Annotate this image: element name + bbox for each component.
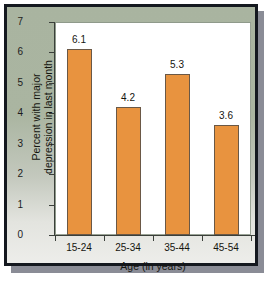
- x-axis-category-label: 15-24: [53, 243, 105, 253]
- y-axis-line: [54, 22, 55, 236]
- bar-25-34: [116, 107, 141, 235]
- y-axis-title: Percent with major depression in last mo…: [30, 17, 54, 217]
- y-axis-tick-label: 1: [1, 200, 23, 210]
- x-axis-tick: [55, 236, 56, 241]
- x-axis-tick: [153, 236, 154, 241]
- y-axis-tick-label: 4: [1, 108, 23, 118]
- bar-value-label: 6.1: [59, 35, 99, 45]
- bar-value-label: 3.6: [206, 111, 246, 121]
- y-axis-title-line-1: Percent with major: [30, 17, 42, 217]
- bar-value-label: 5.3: [157, 60, 197, 70]
- bar-35-44: [165, 74, 190, 235]
- x-axis-tick: [104, 236, 105, 241]
- bar-value-label: 4.2: [108, 93, 148, 103]
- y-axis-tick-label: 2: [1, 169, 23, 179]
- y-axis-tick-label: 5: [1, 78, 23, 88]
- chart-panel: 7 6 5 4 3 2 1 0 6.1 4.2 5.3 3.6 15-24: [4, 4, 258, 266]
- y-axis-tick-label: 3: [1, 139, 23, 149]
- y-axis-tick-label: 7: [1, 17, 23, 27]
- x-axis-tick: [251, 236, 252, 241]
- x-axis-title: Age (in years): [55, 260, 251, 272]
- x-axis-tick: [202, 236, 203, 241]
- y-axis-tick-label: 0: [1, 230, 23, 240]
- bar-15-24: [67, 49, 92, 235]
- x-axis-category-label: 35-44: [151, 243, 203, 253]
- y-axis-tick-label: 6: [1, 47, 23, 57]
- x-axis-category-label: 45-54: [200, 243, 252, 253]
- bar-chart-figure: 7 6 5 4 3 2 1 0 6.1 4.2 5.3 3.6 15-24: [0, 0, 270, 288]
- bar-45-54: [214, 125, 239, 235]
- x-axis-category-label: 25-34: [102, 243, 154, 253]
- y-axis-title-line-2: depression in last month: [42, 17, 54, 217]
